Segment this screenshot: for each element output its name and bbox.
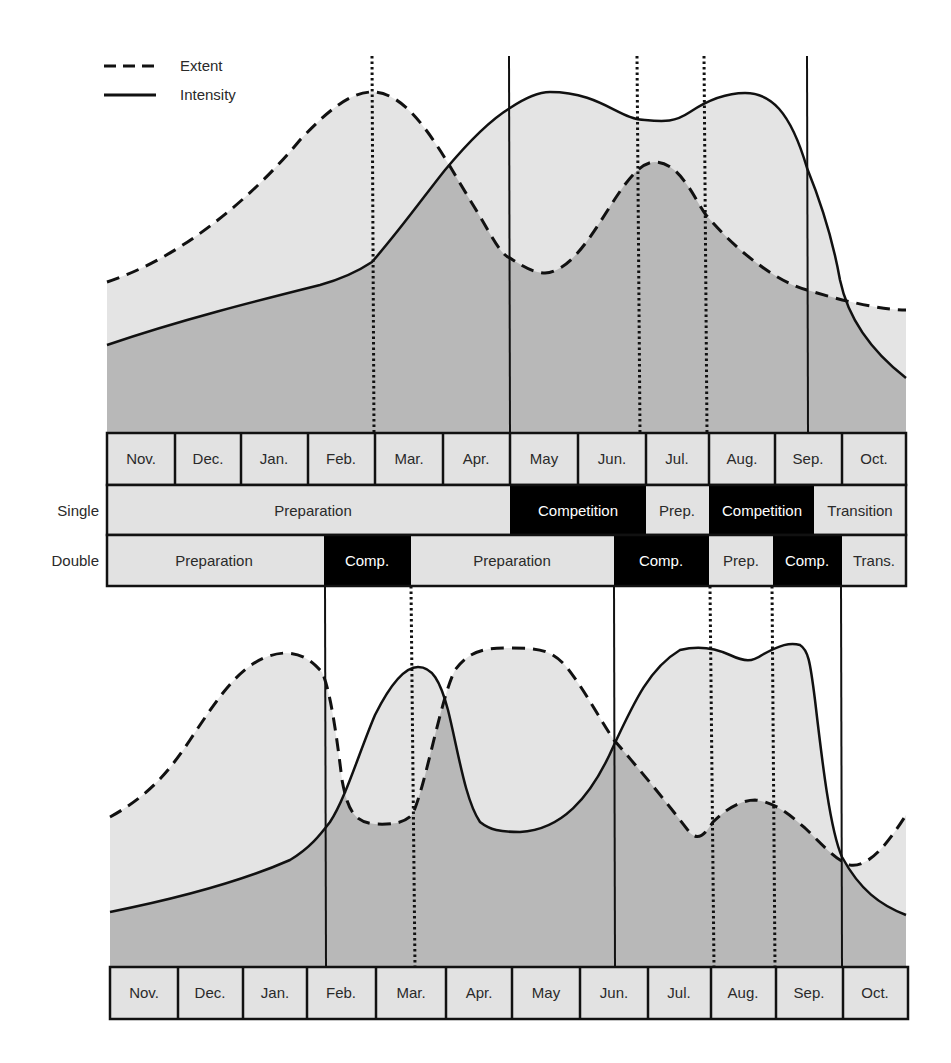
upper-month-aug: Aug. (727, 450, 758, 467)
lower-month-oct: Oct. (861, 984, 889, 1001)
double-phase-trans: Trans. (853, 552, 895, 569)
lower-solid-marker-sep (841, 586, 842, 967)
legend-intensity-label: Intensity (180, 86, 236, 103)
upper-solid-marker-may (509, 56, 510, 433)
lower-month-jul: Jul. (667, 984, 690, 1001)
lower-chart (110, 586, 906, 967)
upper-month-jul: Jul. (665, 450, 688, 467)
upper-month-row: Nov. Dec. Jan. Feb. Mar. Apr. May Jun. J… (107, 433, 906, 485)
lower-month-feb: Feb. (326, 984, 356, 1001)
lower-month-aug: Aug. (728, 984, 759, 1001)
single-phase-transition: Transition (827, 502, 892, 519)
double-phase-comp-1: Comp. (345, 552, 389, 569)
upper-month-dec: Dec. (193, 450, 224, 467)
row-label-double: Double (51, 552, 99, 569)
double-phase-prep: Prep. (723, 552, 759, 569)
legend-extent-label: Extent (180, 57, 223, 74)
upper-solid-marker-sep (807, 56, 808, 433)
single-phase-prep: Prep. (659, 502, 695, 519)
row-label-single: Single (57, 502, 99, 519)
single-phase-competition-1: Competition (538, 502, 618, 519)
upper-dotted-marker-mar (372, 56, 374, 433)
upper-chart: Extent Intensity (104, 56, 906, 433)
single-phase-preparation: Preparation (274, 502, 352, 519)
lower-solid-marker-jun (614, 586, 615, 967)
lower-month-jan: Jan. (261, 984, 289, 1001)
lower-month-apr: Apr. (466, 984, 493, 1001)
lower-month-may: May (532, 984, 561, 1001)
lower-month-sep: Sep. (794, 984, 825, 1001)
upper-month-oct: Oct. (860, 450, 888, 467)
upper-month-sep: Sep. (793, 450, 824, 467)
lower-month-nov: Nov. (129, 984, 159, 1001)
double-phase-preparation-1: Preparation (175, 552, 253, 569)
upper-month-may: May (530, 450, 559, 467)
legend: Extent Intensity (104, 57, 236, 103)
upper-month-feb: Feb. (326, 450, 356, 467)
double-phase-preparation-2: Preparation (473, 552, 551, 569)
periodization-figure: Extent Intensity Nov. Dec. Jan. Feb. Mar… (0, 0, 951, 1063)
single-phase-competition-2: Competition (722, 502, 802, 519)
lower-month-dec: Dec. (195, 984, 226, 1001)
double-phase-comp-2: Comp. (639, 552, 683, 569)
upper-month-nov: Nov. (126, 450, 156, 467)
lower-month-jun: Jun. (600, 984, 628, 1001)
upper-month-apr: Apr. (463, 450, 490, 467)
upper-month-mar: Mar. (394, 450, 423, 467)
double-phase-comp-3: Comp. (785, 552, 829, 569)
lower-month-mar: Mar. (396, 984, 425, 1001)
single-phase-row: Single Preparation Competition Prep. Com… (57, 485, 906, 535)
lower-solid-marker-feb (325, 586, 326, 967)
upper-month-jun: Jun. (598, 450, 626, 467)
double-phase-row: Double Preparation Comp. Preparation Com… (51, 535, 906, 586)
lower-month-row: Nov. Dec. Jan. Feb. Mar. Apr. May Jun. J… (110, 967, 908, 1019)
upper-month-jan: Jan. (260, 450, 288, 467)
